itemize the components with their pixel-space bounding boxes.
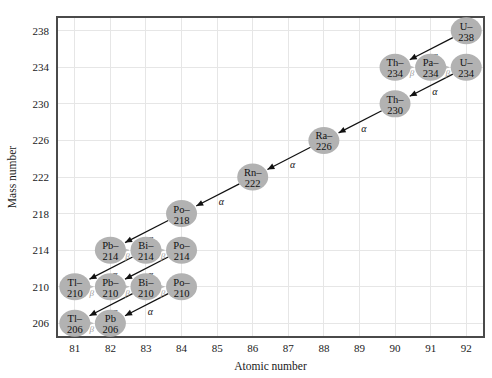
nuclide-mass: 218 (174, 215, 190, 226)
x-tick-label: 87 (283, 342, 295, 354)
chart-canvas: 818283848586878889909192 206210214218222… (0, 0, 492, 378)
nuclide-symbol: Pb– (102, 240, 119, 251)
y-axis-title: Mass number (6, 146, 18, 208)
nuclide-node[interactable]: Rn–222 (237, 164, 268, 191)
nuclide-symbol: Ra– (315, 130, 333, 141)
decay-chain-chart: 818283848586878889909192 206210214218222… (0, 0, 492, 378)
alpha-label: α (290, 159, 296, 170)
nuclide-mass: 214 (138, 251, 155, 262)
nuclide-mass: 234 (458, 68, 475, 79)
y-axis-ticks: 206210214218222226230234238 (33, 25, 50, 330)
nuclide-mass: 206 (67, 324, 83, 335)
x-tick-label: 85 (212, 342, 224, 354)
x-tick-label: 86 (247, 342, 259, 354)
y-tick-label: 206 (33, 317, 50, 329)
nuclide-node[interactable]: Po–218 (166, 200, 197, 227)
nuclide-symbol: Pb (105, 313, 116, 324)
nuclide-symbol: Rn– (244, 167, 262, 178)
x-tick-label: 89 (354, 342, 366, 354)
nuclide-mass: 210 (103, 288, 119, 299)
y-tick-label: 226 (33, 134, 50, 146)
nuclide-mass: 210 (67, 288, 83, 299)
nuclide-node[interactable]: U–234 (451, 54, 482, 81)
x-tick-label: 82 (105, 342, 116, 354)
nuclide-mass: 210 (174, 288, 190, 299)
nuclide-node[interactable]: Tl–210 (59, 273, 90, 300)
y-tick-label: 214 (33, 244, 50, 256)
x-tick-label: 83 (140, 342, 152, 354)
alpha-label: α (148, 306, 154, 317)
nuclide-mass: 234 (423, 68, 440, 79)
x-tick-label: 91 (425, 342, 436, 354)
nuclide-node[interactable]: Pb–210 (95, 273, 126, 300)
nuclide-mass: 206 (103, 324, 119, 335)
nuclide-mass: 214 (103, 251, 120, 262)
y-tick-label: 222 (33, 171, 50, 183)
nuclide-mass: 222 (245, 178, 261, 189)
nuclide-mass: 214 (174, 251, 191, 262)
nuclide-mass: 210 (138, 288, 154, 299)
x-tick-label: 90 (390, 342, 402, 354)
x-tick-label: 81 (69, 342, 80, 354)
nuclide-node[interactable]: Bi–214 (130, 237, 161, 264)
x-tick-label: 88 (318, 342, 330, 354)
nuclide-node[interactable]: Pb206 (95, 310, 126, 337)
y-tick-label: 210 (33, 281, 50, 293)
x-tick-label: 84 (176, 342, 188, 354)
nuclide-mass: 226 (316, 141, 332, 152)
nuclide-mass: 230 (387, 105, 403, 116)
nuclide-node[interactable]: Pa–234 (415, 54, 446, 81)
nuclide-node[interactable]: Po–214 (166, 237, 197, 264)
nuclide-symbol: Th– (387, 94, 405, 105)
nuclide-node[interactable]: Pb–214 (95, 237, 126, 264)
nuclide-symbol: Th– (387, 57, 405, 68)
nuclide-symbol: Tl– (67, 277, 82, 288)
nuclide-symbol: Pb– (102, 277, 119, 288)
nuclide-node[interactable]: Th–230 (380, 90, 411, 117)
nuclide-node[interactable]: Tl–206 (59, 310, 90, 337)
y-tick-label: 218 (33, 208, 50, 220)
y-tick-label: 238 (33, 25, 50, 37)
alpha-label: α (361, 123, 367, 134)
nuclide-node[interactable]: Ra–226 (308, 127, 339, 154)
nuclide-symbol: Po– (173, 240, 190, 251)
y-tick-label: 230 (33, 98, 50, 110)
nuclide-symbol: U– (460, 57, 474, 68)
x-axis-title: Atomic number (234, 360, 307, 372)
nuclide-node[interactable]: Bi–210 (130, 273, 161, 300)
nuclide-symbol: Tl– (67, 313, 82, 324)
alpha-label: α (432, 86, 438, 97)
nuclide-node[interactable]: Th–234 (380, 54, 411, 81)
alpha-label: α (219, 196, 225, 207)
nuclide-symbol: Bi– (138, 277, 154, 288)
nuclide-node[interactable]: Po–210 (166, 273, 197, 300)
nuclide-symbol: Po– (173, 277, 190, 288)
nuclide-symbol: Pa– (423, 57, 440, 68)
nuclide-node[interactable]: U–238 (451, 17, 482, 44)
x-tick-label: 92 (461, 342, 472, 354)
nuclide-symbol: Po– (173, 204, 190, 215)
nuclide-symbol: U– (460, 21, 474, 32)
y-tick-label: 234 (33, 61, 50, 73)
nuclide-symbol: Bi– (138, 240, 154, 251)
nuclide-mass: 234 (387, 68, 404, 79)
nuclide-mass: 238 (458, 32, 474, 43)
